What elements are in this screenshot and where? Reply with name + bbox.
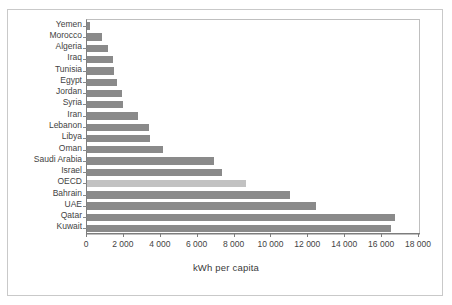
x-tick-label: 4 000 bbox=[149, 239, 170, 249]
bar-row bbox=[87, 189, 419, 201]
x-tick-label: 6 000 bbox=[186, 239, 207, 249]
bar-egypt bbox=[87, 79, 117, 86]
bar-saudi-arabia bbox=[87, 157, 214, 164]
bar-tunisia bbox=[87, 67, 114, 74]
category-label-saudi-arabia: Saudi Arabia bbox=[34, 155, 82, 164]
bar-oman bbox=[87, 146, 163, 153]
bar-row bbox=[87, 144, 419, 156]
x-tick-label: 8 000 bbox=[223, 239, 244, 249]
bar-row bbox=[87, 31, 419, 43]
plot-wrapper: YemenMoroccoAlgeriaIraqTunisiaEgyptJorda… bbox=[8, 10, 442, 295]
bar-row bbox=[87, 88, 419, 100]
category-label-bahrain: Bahrain bbox=[53, 189, 82, 198]
x-tick bbox=[307, 233, 308, 237]
bar-algeria bbox=[87, 45, 108, 52]
category-label-jordan: Jordan bbox=[56, 87, 82, 96]
category-label-uae: UAE bbox=[65, 200, 82, 209]
x-tick-label: 0 bbox=[84, 239, 89, 249]
bar-iraq bbox=[87, 56, 113, 63]
category-label-lebanon: Lebanon bbox=[49, 121, 82, 130]
category-label-israel: Israel bbox=[61, 166, 82, 175]
bar-israel bbox=[87, 169, 222, 176]
bar-row bbox=[87, 110, 419, 122]
bar-row bbox=[87, 200, 419, 212]
category-label-morocco: Morocco bbox=[49, 31, 82, 40]
category-label-libya: Libya bbox=[62, 132, 82, 141]
bar-row bbox=[87, 20, 419, 32]
bar-row bbox=[87, 65, 419, 77]
bar-lebanon bbox=[87, 124, 149, 131]
category-label-yemen: Yemen bbox=[56, 20, 82, 29]
x-tick-label: 16 000 bbox=[368, 239, 394, 249]
bar-row bbox=[87, 155, 419, 167]
bar-qatar bbox=[87, 214, 395, 221]
x-tick bbox=[123, 233, 124, 237]
category-label-iran: Iran bbox=[67, 110, 82, 119]
category-label-egypt: Egypt bbox=[60, 76, 82, 85]
bar-bahrain bbox=[87, 191, 290, 198]
category-label-syria: Syria bbox=[63, 98, 82, 107]
bar-row bbox=[87, 211, 419, 223]
x-tick bbox=[197, 233, 198, 237]
category-label-oman: Oman bbox=[59, 144, 82, 153]
x-tick bbox=[344, 233, 345, 237]
bar-row bbox=[87, 99, 419, 111]
plot-area bbox=[86, 19, 420, 235]
x-tick-label: 12 000 bbox=[294, 239, 320, 249]
x-axis-line bbox=[86, 233, 420, 234]
bar-jordan bbox=[87, 90, 122, 97]
bar-row bbox=[87, 43, 419, 55]
x-tick bbox=[270, 233, 271, 237]
chart-figure: YemenMoroccoAlgeriaIraqTunisiaEgyptJorda… bbox=[7, 9, 443, 296]
top-cropped-title bbox=[0, 0, 452, 8]
x-tick-label: 18 000 bbox=[405, 239, 431, 249]
bar-yemen bbox=[87, 22, 90, 29]
bar-morocco bbox=[87, 33, 102, 40]
bar-row bbox=[87, 54, 419, 66]
bar-kuwait bbox=[87, 225, 391, 232]
category-label-algeria: Algeria bbox=[56, 42, 82, 51]
bar-row bbox=[87, 76, 419, 88]
category-label-qatar: Qatar bbox=[61, 211, 82, 220]
category-label-kuwait: Kuwait bbox=[56, 222, 82, 231]
category-label-tunisia: Tunisia bbox=[55, 65, 82, 74]
bar-libya bbox=[87, 135, 150, 142]
x-tick-label: 2 000 bbox=[112, 239, 133, 249]
bar-row bbox=[87, 133, 419, 145]
bar-uae bbox=[87, 202, 316, 209]
x-tick bbox=[160, 233, 161, 237]
category-label-iraq: Iraq bbox=[67, 53, 82, 62]
bar-iran bbox=[87, 112, 138, 119]
bar-oecd bbox=[87, 180, 246, 187]
x-tick bbox=[381, 233, 382, 237]
x-tick bbox=[86, 233, 87, 237]
x-tick-label: 10 000 bbox=[257, 239, 283, 249]
x-tick bbox=[418, 233, 419, 237]
bar-row bbox=[87, 166, 419, 178]
category-axis-labels: YemenMoroccoAlgeriaIraqTunisiaEgyptJorda… bbox=[8, 19, 82, 233]
x-axis-title: kWh per capita bbox=[8, 262, 444, 273]
bar-row bbox=[87, 178, 419, 190]
category-label-oecd: OECD bbox=[57, 177, 82, 186]
bar-syria bbox=[87, 101, 123, 108]
x-tick-label: 14 000 bbox=[331, 239, 357, 249]
bar-row bbox=[87, 121, 419, 133]
x-tick bbox=[234, 233, 235, 237]
